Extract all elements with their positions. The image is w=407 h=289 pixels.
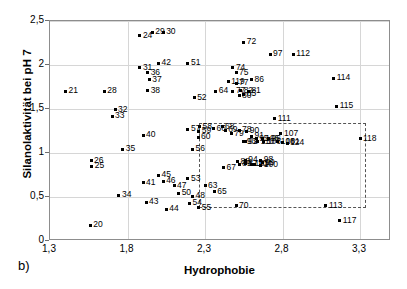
y-tick-mark: [45, 108, 49, 109]
x-tick-label: 1,8: [107, 243, 147, 254]
y-tick-label: 1: [2, 146, 44, 157]
y-tick-mark: [45, 20, 49, 21]
x-tick-label: 3,3: [339, 243, 379, 254]
y-tick-label: 0,5: [2, 190, 44, 201]
y-tick-mark: [45, 152, 49, 153]
y-tick-mark: [45, 240, 49, 241]
figure-panel-b: Silanolaktivität bei pH 7 Hydrophobie b)…: [0, 0, 407, 289]
y-tick-mark: [45, 64, 49, 65]
axis-tick-labels: 00,511,522,5 1,31,82,32,83,3: [0, 0, 407, 289]
x-tick-label: 1,3: [29, 243, 69, 254]
x-tick-label: 2,3: [184, 243, 224, 254]
x-tick-label: 2,8: [262, 243, 302, 254]
y-tick-mark: [45, 196, 49, 197]
y-tick-label: 2: [2, 58, 44, 69]
y-tick-label: 1,5: [2, 102, 44, 113]
y-tick-label: 2,5: [2, 14, 44, 25]
